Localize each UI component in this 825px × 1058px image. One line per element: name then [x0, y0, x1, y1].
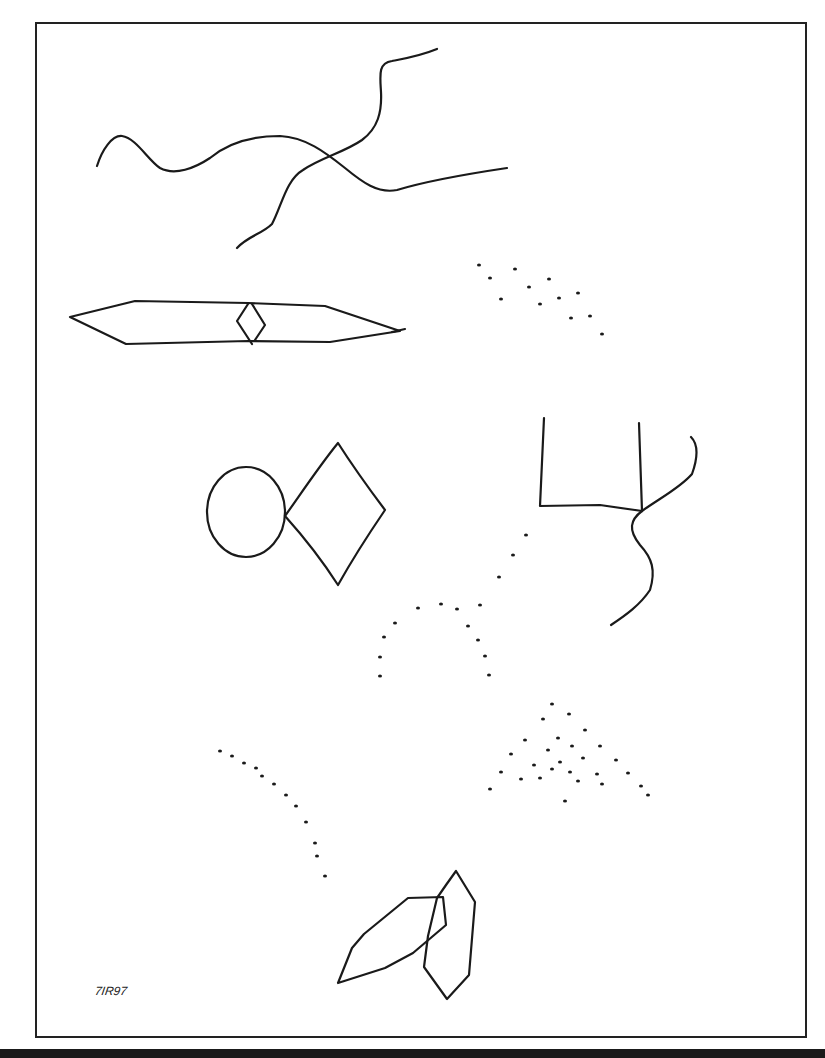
dot [488, 787, 492, 790]
dot [272, 782, 276, 785]
dot [513, 267, 517, 270]
dot [455, 607, 459, 610]
dot [382, 635, 386, 638]
dot [499, 297, 503, 300]
dot [218, 749, 222, 752]
dot [511, 553, 515, 556]
dot [260, 774, 264, 777]
dot [509, 752, 513, 755]
dot [527, 285, 531, 288]
dot [439, 602, 443, 605]
dot-clusters [218, 263, 650, 877]
dot [378, 674, 382, 677]
branch-up-line [642, 437, 696, 511]
left-leaf-shape [338, 897, 446, 983]
dot [576, 291, 580, 294]
large-diamond [285, 443, 385, 585]
wave-line [97, 136, 507, 191]
dot [557, 296, 561, 299]
branch-down-line [611, 511, 653, 625]
dot [315, 854, 319, 857]
dot [626, 771, 630, 774]
dot [581, 756, 585, 759]
triangle-dots [488, 702, 650, 802]
dot [466, 624, 470, 627]
curve-dots [218, 749, 327, 877]
bottom-band [0, 1049, 825, 1058]
dot [393, 621, 397, 624]
dot [568, 770, 572, 773]
dot [519, 777, 523, 780]
dot [583, 728, 587, 731]
dot [588, 314, 592, 317]
arch-dots [378, 533, 528, 677]
dot [313, 841, 317, 844]
dot [416, 606, 420, 609]
dot [254, 766, 258, 769]
artist-signature: 7IR97 [94, 984, 128, 998]
dot [294, 804, 298, 807]
dot [556, 736, 560, 739]
small-diamond [237, 304, 265, 344]
dot [569, 316, 573, 319]
dot [546, 748, 550, 751]
dot [598, 744, 602, 747]
dot [600, 782, 604, 785]
dot [550, 702, 554, 705]
dot [483, 654, 487, 657]
dot [639, 784, 643, 787]
bracket-shape [540, 418, 642, 511]
dot [378, 655, 382, 658]
dot [497, 575, 501, 578]
right-leaf-shape [424, 871, 475, 999]
dot [523, 738, 527, 741]
dot [284, 793, 288, 796]
dot [242, 761, 246, 764]
dot [476, 638, 480, 641]
dot [547, 277, 551, 280]
dot [487, 673, 491, 676]
dot [558, 760, 562, 763]
dot [576, 779, 580, 782]
dot [477, 263, 481, 266]
dot [614, 758, 618, 761]
dot [538, 776, 542, 779]
dot [538, 302, 542, 305]
dot [550, 767, 554, 770]
dot [646, 793, 650, 796]
dot [567, 712, 571, 715]
dot [230, 754, 234, 757]
circle-shape [207, 467, 285, 557]
dot [595, 772, 599, 775]
dot [499, 770, 503, 773]
crossing-line [237, 49, 437, 248]
dot [570, 744, 574, 747]
dot [304, 820, 308, 823]
lens-shape [70, 301, 400, 344]
dot [323, 874, 327, 877]
upper-right-dots [477, 263, 604, 335]
dot [532, 763, 536, 766]
dot [524, 533, 528, 536]
line-drawing [0, 0, 825, 1058]
dot [478, 603, 482, 606]
dot [488, 276, 492, 279]
dot [600, 332, 604, 335]
dot [563, 799, 567, 802]
dot [541, 717, 545, 720]
